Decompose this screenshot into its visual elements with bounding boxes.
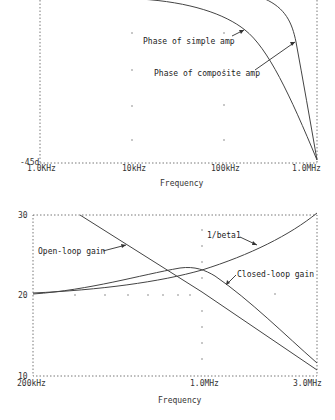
composite-amp-phase-curve xyxy=(265,0,317,160)
bottom-x-tick-3M: 3.0MHz xyxy=(293,379,322,388)
closed-loop-gain-curve xyxy=(33,267,317,363)
gain-chart: Open-loop gain 1/beta1 Closed-loop gain … xyxy=(17,211,322,405)
arrow-head-icon xyxy=(252,241,257,245)
bottom-frame xyxy=(33,215,317,376)
label-beta: 1/beta1 xyxy=(207,231,241,240)
top-grid-dots xyxy=(131,32,224,140)
top-x-tick-100k: 100kHz xyxy=(211,164,240,173)
label-open-loop-gain: Open-loop gain xyxy=(38,247,106,256)
open-loop-gain-curve xyxy=(80,215,317,370)
label-closed-loop-gain: Closed-loop gain xyxy=(237,270,314,279)
bottom-y-tick-30: 30 xyxy=(18,211,28,220)
bottom-x-tick-200k: 200kHz xyxy=(17,379,46,388)
bottom-x-axis-label: Frequency xyxy=(158,396,202,405)
bottom-y-tick-20: 20 xyxy=(18,291,28,300)
label-simple-amp: Phase of simple amp xyxy=(143,37,235,46)
top-x-tick-1k: 1.0KHz xyxy=(27,164,56,173)
phase-chart: Phase of simple amp Phase of composite a… xyxy=(20,0,321,188)
arrow-head-icon xyxy=(226,280,230,285)
bottom-x-tick-1M: 1.0MHz xyxy=(190,379,219,388)
arrow-head-icon xyxy=(121,244,126,248)
top-x-tick-10k: 10kHz xyxy=(122,164,146,173)
top-x-tick-1M: 1.0MHz xyxy=(292,164,321,173)
label-composite-amp: Phase of composite amp xyxy=(154,69,260,78)
top-x-axis-label: Frequency xyxy=(160,179,204,188)
figure: Phase of simple amp Phase of composite a… xyxy=(0,0,335,420)
composite-amp-arrow xyxy=(255,42,295,70)
